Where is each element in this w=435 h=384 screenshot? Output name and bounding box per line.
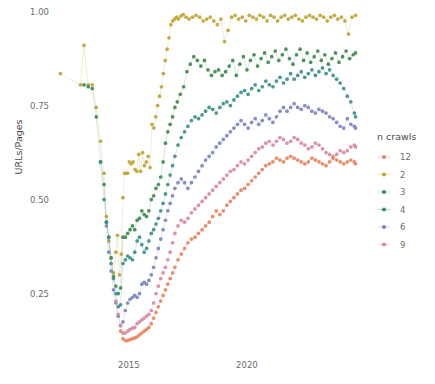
data-point	[271, 143, 275, 147]
data-point	[220, 74, 224, 78]
data-point	[306, 160, 310, 164]
data-point	[321, 109, 325, 113]
data-point	[317, 107, 321, 111]
data-point	[185, 70, 189, 74]
data-point	[317, 143, 321, 147]
data-point	[242, 55, 246, 59]
data-point	[157, 217, 161, 221]
data-point	[345, 94, 349, 98]
data-point	[147, 279, 151, 283]
data-point	[338, 124, 342, 128]
data-point	[349, 145, 353, 149]
legend-label: 9	[400, 240, 405, 250]
data-point	[221, 138, 225, 142]
data-point	[139, 170, 143, 174]
legend-title: n crawls	[377, 131, 416, 142]
data-point	[121, 320, 125, 324]
data-point	[173, 232, 177, 236]
data-point	[200, 228, 204, 232]
data-point	[325, 19, 329, 23]
data-point	[191, 15, 195, 19]
data-point	[154, 222, 158, 226]
data-point	[161, 201, 165, 205]
data-point	[347, 32, 351, 36]
data-point	[310, 68, 314, 72]
data-point	[198, 15, 202, 19]
data-point	[107, 250, 111, 254]
data-point	[137, 153, 141, 157]
data-point	[246, 158, 250, 162]
data-point	[348, 57, 352, 61]
data-point	[239, 160, 243, 164]
legend-item-9[interactable]: 9	[378, 240, 405, 250]
data-point	[225, 100, 229, 104]
data-point	[188, 62, 192, 66]
data-point	[200, 113, 204, 117]
data-point	[349, 100, 353, 104]
data-point	[324, 151, 328, 155]
data-point	[193, 115, 197, 119]
data-point	[161, 228, 165, 232]
data-point	[303, 75, 307, 79]
data-point	[310, 145, 314, 149]
data-point	[224, 70, 228, 74]
data-point	[310, 109, 314, 113]
data-point	[345, 117, 349, 121]
data-point	[156, 104, 160, 108]
legend-item-6[interactable]: 6	[378, 222, 405, 232]
data-point	[166, 130, 170, 134]
data-point	[276, 19, 280, 23]
data-point	[183, 130, 187, 134]
data-point	[214, 209, 218, 213]
data-point	[328, 160, 332, 164]
data-point	[354, 51, 358, 55]
data-point	[277, 59, 281, 63]
data-point	[285, 141, 289, 145]
data-point	[179, 177, 183, 181]
data-point	[236, 192, 240, 196]
legend-item-2[interactable]: 2	[378, 170, 405, 180]
data-point	[99, 139, 103, 143]
data-point	[173, 265, 177, 269]
data-point	[329, 15, 333, 19]
data-point	[278, 75, 282, 79]
data-point	[231, 59, 235, 63]
data-point	[175, 100, 179, 104]
data-point	[341, 55, 345, 59]
data-point	[239, 119, 243, 123]
data-point	[229, 104, 233, 108]
data-point	[246, 92, 250, 96]
y-axis-tick-label: 0.75	[30, 101, 49, 111]
data-point	[331, 156, 335, 160]
data-point	[218, 213, 222, 217]
data-point	[236, 123, 240, 127]
data-point	[171, 115, 175, 119]
legend-item-3[interactable]: 3	[378, 187, 405, 197]
data-point	[165, 47, 169, 51]
data-point	[227, 64, 231, 68]
data-point	[279, 15, 283, 19]
data-point	[145, 215, 149, 219]
data-point	[221, 102, 225, 106]
y-axis-tick-label: 0.50	[30, 195, 49, 205]
data-point	[211, 188, 215, 192]
legend-item-4[interactable]: 4	[378, 205, 405, 215]
data-point	[142, 250, 146, 254]
data-point	[223, 40, 227, 44]
data-point	[152, 126, 156, 130]
data-point	[119, 329, 123, 333]
data-point	[166, 258, 170, 262]
data-point	[288, 57, 292, 61]
data-point	[285, 109, 289, 113]
data-point	[286, 17, 290, 21]
data-point	[253, 83, 257, 87]
data-point	[296, 138, 300, 142]
data-point	[171, 164, 175, 168]
data-point	[135, 239, 139, 243]
legend-item-12[interactable]: 12	[378, 152, 411, 162]
data-point	[210, 74, 214, 78]
data-point	[112, 288, 116, 292]
legend-swatch-marker	[382, 155, 386, 159]
data-point	[343, 19, 347, 23]
data-point	[232, 98, 236, 102]
